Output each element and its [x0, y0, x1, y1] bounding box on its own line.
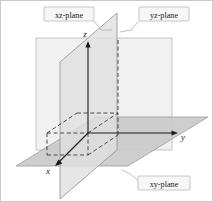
coordinate-planes-figure: z y x xz-plane yz-plane xy-plane: [0, 0, 213, 202]
yz-plane-label: yz-plane: [150, 11, 179, 20]
y-axis-label: y: [180, 132, 185, 142]
xz-plane-callout: xz-plane: [44, 7, 94, 21]
z-axis-label: z: [82, 29, 87, 39]
x-axis-label: x: [45, 166, 50, 176]
xz-plane-label: xz-plane: [55, 11, 84, 20]
figure-canvas: z y x xz-plane yz-plane xy-plane: [0, 0, 213, 202]
yz-plane-callout: yz-plane: [139, 7, 189, 21]
xy-plane-callout: xy-plane: [138, 176, 190, 190]
xy-plane-label: xy-plane: [150, 180, 179, 189]
